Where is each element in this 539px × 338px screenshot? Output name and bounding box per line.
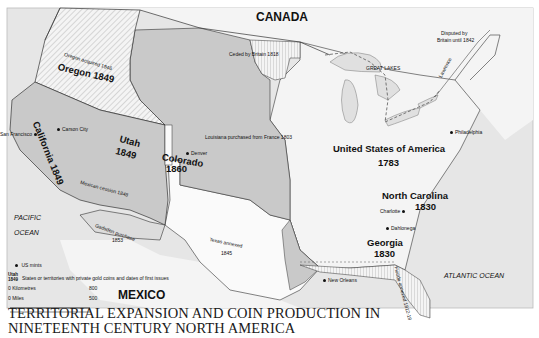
figure-title-line-2: NINETEENTH CENTURY NORTH AMERICA [8,320,295,337]
region-label-georgia-year: 1830 [374,249,395,259]
annotation-great-lakes: GREAT LAKES [366,66,400,71]
mint-dot-icon [386,227,389,230]
legend-km-label: 0 Kilometres [8,286,36,291]
annotation-disputed: Disputed by [441,31,467,36]
annotation-ceded: Ceded by Britain 1818 [229,52,278,57]
annotation-louisiana: Louisiana purchased from France 1803 [205,135,292,140]
city-san-francisco: San Francisco [0,132,39,137]
legend-sample-year: 1849 [8,278,18,283]
ocean-label-pacific: PACIFIC [14,214,41,221]
ocean-label-atlantic: ATLANTIC OCEAN [444,272,504,279]
annotation-gadsden-year: 1853 [112,238,123,243]
region-label-georgia: Georgia [367,238,403,248]
city-philadelphia: Philadelphia [448,130,482,135]
annotation-texas-year: 1845 [221,251,232,256]
mint-dot-icon [450,131,453,134]
city-new-orleans: New Orleans [321,278,357,283]
country-label-mexico: MEXICO [118,289,165,301]
legend-mi-value: 500 [89,296,97,301]
legend-mints: US mints [13,263,42,268]
map-figure: CANADA MEXICO PACIFIC OCEAN ATLANTIC OCE… [0,0,539,338]
legend-km-value: 800 [89,286,97,291]
mint-dot-icon [186,152,189,155]
mint-dot-icon [402,210,405,213]
mint-dot-icon [34,133,37,136]
region-label-north-carolina: North Carolina [382,191,448,201]
mint-dot-icon [57,128,60,131]
mint-dot-icon [15,264,18,267]
city-dahlonega: Dahlonega [384,226,415,231]
mint-dot-icon [323,279,326,282]
region-label-nc-year: 1830 [415,202,436,212]
country-label-canada: CANADA [256,11,308,23]
annotation-disputed-2: Britain until 1842 [437,38,474,43]
city-carson-city: Carson City [55,127,88,132]
legend-mi-label: 0 Miles [8,296,24,301]
city-denver: Denver [184,151,207,156]
ocean-label-pacific-2: OCEAN [14,229,39,236]
region-label-usa-year: 1783 [378,158,399,168]
legend-states-desc: States or territories with private gold … [22,276,169,281]
city-charlotte: Charlotte [380,209,407,214]
region-label-usa: United States of America [333,144,445,154]
region-label-colorado-year: 1860 [166,164,187,174]
